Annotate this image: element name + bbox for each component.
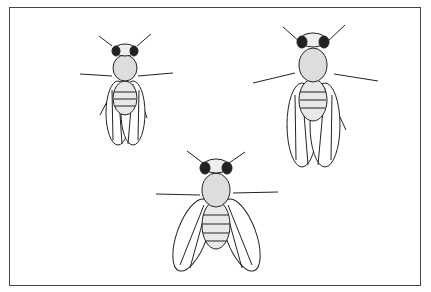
fly-top-right: [253, 25, 378, 167]
fruit-flies-illustration: [0, 0, 431, 292]
fly-top-left: [80, 34, 173, 145]
fly-bottom-center: [156, 151, 278, 276]
